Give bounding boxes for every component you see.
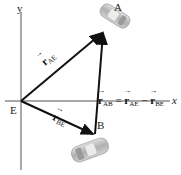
point-a-label: A xyxy=(114,2,122,13)
car-b-icon xyxy=(69,136,110,164)
origin-label-e: E xyxy=(10,105,17,116)
vector-r-ae xyxy=(21,33,102,101)
x-axis-label: x xyxy=(172,95,177,106)
vector-equation: rAB = rAE − rBE xyxy=(98,94,164,108)
equation-term1: rAE xyxy=(124,94,138,106)
point-b-label: B xyxy=(97,120,104,131)
equation-term2: rBE xyxy=(150,94,164,106)
equation-lhs: rAB xyxy=(98,94,113,106)
equation-equals: = xyxy=(115,94,121,106)
equation-minus: − xyxy=(141,94,147,106)
y-axis-label: y xyxy=(17,3,23,14)
